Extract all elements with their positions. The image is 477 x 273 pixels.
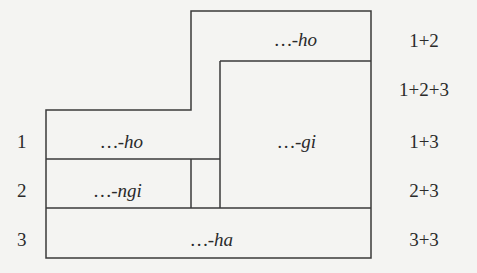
row-number-3: 3 [17,230,27,250]
cell-top-right-ho: …-ho [275,30,317,50]
morpheme-block-diagram: 1 2 3 …-ho …-ho …-gi …-ngi …-ha 1+2 1+2+… [0,0,477,273]
combo-label-3-3: 3+3 [409,230,439,250]
row-number-2: 2 [17,181,27,201]
diagram-outline [0,0,477,273]
combo-label-1-3: 1+3 [409,132,439,152]
cell-row1-ho: …-ho [101,132,143,152]
outer-outline [46,11,371,258]
cell-row2-ngi: …-ngi [94,181,142,201]
combo-label-2-3: 2+3 [409,181,439,201]
combo-label-1-2: 1+2 [409,31,439,51]
combo-label-1-2-3: 1+2+3 [399,80,449,100]
row-number-1: 1 [17,132,27,152]
cell-right-inner-gi: …-gi [278,132,316,152]
cell-row3-ha: …-ha [191,230,233,250]
